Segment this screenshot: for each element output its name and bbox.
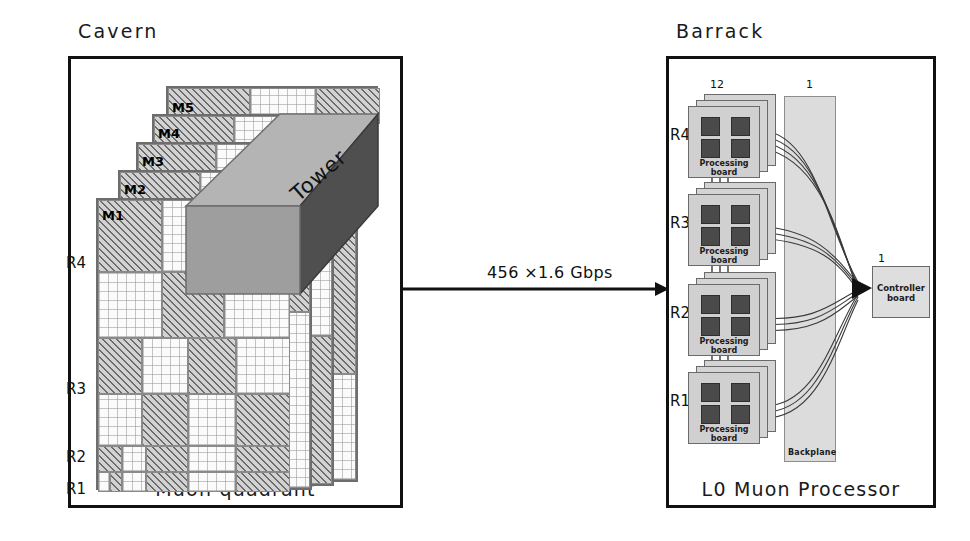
processing-board[interactable]: Processing board (688, 194, 760, 266)
station-label-M1: M1 (102, 208, 124, 223)
region-label-R4: R4 (66, 254, 86, 272)
station-label-M5: M5 (172, 100, 194, 115)
region-label-R3: R3 (66, 380, 86, 398)
chip (701, 295, 720, 314)
tower-top-face (68, 56, 403, 508)
controller-count-label: 1 (878, 252, 885, 265)
muon-quadrant-diagram: M5 M4 M3 M2 Tower (68, 56, 403, 508)
chip (731, 205, 750, 224)
chip (701, 383, 720, 402)
processing-board[interactable]: Processing board (688, 284, 760, 356)
barrack-caption: L0 Muon Processor (666, 478, 936, 500)
link-arrow-icon (403, 280, 671, 302)
controller-board[interactable]: Controller board (872, 266, 930, 318)
processing-board-label-line2: board (689, 256, 759, 266)
chip (731, 405, 750, 424)
row-region-label-R1: R1 (670, 392, 690, 410)
l0-muon-processor-diagram: 1 Backplane (666, 56, 936, 508)
chip (731, 227, 750, 246)
station-label-M2: M2 (124, 182, 146, 197)
row-region-label-R4: R4 (670, 126, 690, 144)
chip (701, 205, 720, 224)
chip (701, 227, 720, 246)
chip (701, 405, 720, 424)
chip (731, 317, 750, 336)
processing-board[interactable]: Processing board (688, 372, 760, 444)
barrack-title: Barrack (676, 20, 764, 42)
region-label-R1: R1 (66, 480, 86, 498)
station-label-M3: M3 (142, 154, 164, 169)
board-count-label: 12 (710, 78, 724, 91)
chip (731, 295, 750, 314)
controller-board-label-line1: Controller (873, 283, 929, 293)
chip (701, 139, 720, 158)
station-label-M4: M4 (158, 126, 180, 141)
processing-board-label-line2: board (689, 168, 759, 178)
cavern-title: Cavern (78, 20, 159, 42)
chip (701, 317, 720, 336)
chip (731, 139, 750, 158)
processing-board[interactable]: Processing board (688, 106, 760, 178)
controller-board-label-line2: board (873, 293, 929, 303)
region-label-R2: R2 (66, 448, 86, 466)
chip (731, 383, 750, 402)
row-region-label-R3: R3 (670, 214, 690, 232)
processing-board-label-line2: board (689, 434, 759, 444)
processing-board-label-line2: board (689, 346, 759, 356)
row-region-label-R2: R2 (670, 304, 690, 322)
chip (731, 117, 750, 136)
chip (701, 117, 720, 136)
